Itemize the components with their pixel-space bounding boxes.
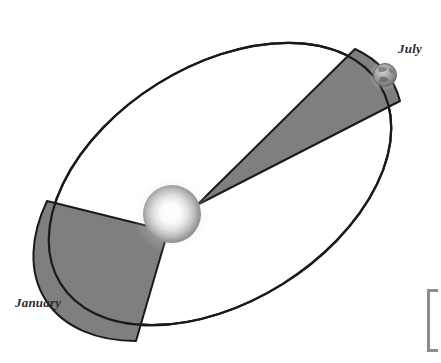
orbit-diagram-svg — [0, 0, 441, 363]
label-july: July — [398, 41, 422, 57]
orbit-diagram-figure: January July — [0, 0, 441, 363]
earth-group — [369, 59, 401, 91]
sun-icon — [143, 185, 201, 243]
sun-group — [132, 174, 212, 254]
edge-bracket — [427, 289, 438, 352]
label-january: January — [15, 295, 61, 311]
